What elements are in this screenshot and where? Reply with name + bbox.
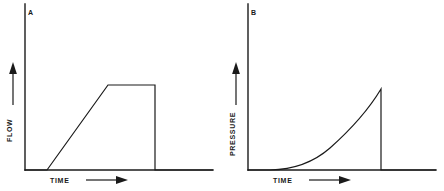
panel-label-a: A bbox=[28, 9, 33, 16]
figure-container: A FLOW TIME B bbox=[0, 0, 444, 191]
pressure-waveform-trace bbox=[248, 89, 436, 170]
panel-b: B PRESSURE TIME bbox=[222, 0, 444, 191]
y-axis-label-a: FLOW bbox=[6, 119, 13, 142]
y-axis-arrow-a bbox=[9, 62, 17, 105]
x-axis-label-a: TIME bbox=[50, 177, 70, 184]
flow-waveform-trace bbox=[25, 85, 213, 170]
x-axis-arrow-a bbox=[86, 176, 128, 184]
x-axis-arrow-b bbox=[309, 176, 351, 184]
panel-a: A FLOW TIME bbox=[0, 0, 222, 191]
panel-label-b: B bbox=[251, 9, 256, 16]
y-axis-arrow-b bbox=[232, 62, 240, 105]
y-axis-label-b: PRESSURE bbox=[229, 112, 236, 156]
x-axis-label-b: TIME bbox=[273, 177, 293, 184]
